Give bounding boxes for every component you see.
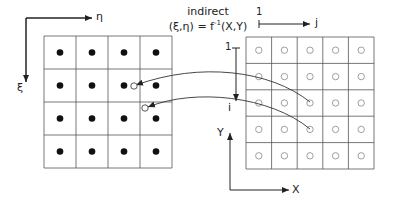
open-node-circle [281,153,287,159]
filled-node-dot [89,148,96,155]
open-node-circle [256,153,262,159]
filled-node-dot [121,82,128,89]
open-node-circle [332,126,338,132]
open-node-circle [358,153,364,159]
y-label: Y [217,127,224,138]
filled-node-dot [121,148,128,155]
filled-node-dot [57,49,64,56]
filled-node-dot [121,49,128,56]
eta-label: η [96,11,103,22]
j-start-label: 1 [256,7,262,17]
i-start-label: 1 [225,42,231,52]
filled-node-dot [57,148,64,155]
open-node-circle [358,126,364,132]
open-node-circle [281,73,287,79]
open-node-circle [307,153,313,159]
filled-node-dot [57,82,64,89]
title-formula: (ξ,η) = f-1(X,Y) [169,20,248,32]
j-label: j [315,17,318,28]
open-node-circle [256,47,262,53]
open-node-circle [332,73,338,79]
filled-node-dot [153,148,160,155]
filled-node-dot [89,82,96,89]
title-indirect: indirect [187,6,228,17]
x-label: X [292,184,300,195]
x-y-axes [230,133,289,190]
open-node-circle [358,47,364,53]
filled-node-dot [153,82,160,89]
interpolated-points [131,83,148,111]
filled-node-dot [89,49,96,56]
i-label: i [228,102,231,113]
physical-grid [246,37,374,169]
open-node-circle [332,100,338,106]
open-node-circle [307,47,313,53]
filled-node-dot [153,49,160,56]
open-node-circle [256,126,262,132]
filled-node-dot [57,115,64,122]
filled-node-dot [153,115,160,122]
open-node-circle [332,153,338,159]
open-node-circle [281,47,287,53]
formula-rhs: (X,Y) [221,20,247,33]
open-node-circle [281,126,287,132]
filled-node-dot [89,115,96,122]
filled-node-dot [121,115,128,122]
open-node-circle [358,73,364,79]
j-index-axis [259,20,310,28]
open-node-circle [332,47,338,53]
computational-grid [44,36,172,168]
formula-lhs: (ξ,η) = f [169,20,214,33]
open-node-circle [307,73,313,79]
open-point-marker [131,83,137,89]
xi-label: ξ [17,82,23,93]
open-node-circle [281,100,287,106]
open-node-circle [358,100,364,106]
i-index-axis [232,48,240,101]
open-point-marker [142,105,148,111]
